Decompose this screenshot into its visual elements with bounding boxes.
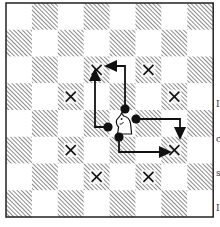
board-squares — [6, 3, 214, 217]
dark-square — [32, 164, 58, 191]
light-square — [187, 137, 213, 164]
dark-square — [187, 164, 213, 191]
x-mark-icon — [167, 90, 181, 104]
dark-square — [110, 137, 136, 164]
dark-square — [187, 110, 213, 137]
light-square — [58, 110, 84, 137]
light-square — [84, 137, 110, 164]
light-square — [136, 137, 162, 164]
dot-icon — [114, 132, 123, 141]
dot-icon — [120, 104, 129, 113]
light-square — [187, 83, 213, 110]
knight-move-diagram — [0, 0, 220, 227]
dark-square — [84, 3, 110, 30]
x-mark-icon — [141, 170, 155, 184]
light-square — [6, 110, 32, 137]
text-fragment: c — [216, 134, 220, 146]
light-square — [58, 164, 84, 191]
dark-square — [110, 30, 136, 57]
dark-square — [6, 190, 32, 217]
dark-square — [136, 110, 162, 137]
light-square — [110, 164, 136, 191]
light-square — [32, 137, 58, 164]
light-square — [58, 3, 84, 30]
light-square — [161, 110, 187, 137]
light-square — [136, 83, 162, 110]
light-square — [161, 57, 187, 84]
x-mark-icon — [90, 170, 104, 184]
dark-square — [58, 30, 84, 57]
light-square — [84, 30, 110, 57]
dark-square — [6, 83, 32, 110]
light-square — [187, 30, 213, 57]
dark-square — [110, 190, 136, 217]
text-fragment: I — [216, 99, 220, 111]
light-square — [6, 3, 32, 30]
dark-square — [32, 3, 58, 30]
light-square — [6, 57, 32, 84]
light-square — [32, 30, 58, 57]
text-fragment: s — [216, 168, 220, 180]
x-mark-icon — [167, 143, 181, 157]
dot-icon — [131, 114, 140, 123]
x-mark-icon — [64, 90, 78, 104]
light-square — [136, 30, 162, 57]
light-square — [84, 83, 110, 110]
x-mark-icon — [141, 63, 155, 77]
dark-square — [161, 30, 187, 57]
dark-square — [6, 30, 32, 57]
dark-square — [161, 190, 187, 217]
light-square — [187, 190, 213, 217]
dark-square — [136, 3, 162, 30]
light-square — [58, 57, 84, 84]
light-square — [32, 83, 58, 110]
light-square — [6, 164, 32, 191]
text-fragment: I — [216, 203, 220, 215]
light-square — [161, 164, 187, 191]
clipped-side-text: I c s I t - a I s — [216, 76, 220, 227]
dark-square — [187, 3, 213, 30]
light-square — [32, 190, 58, 217]
dark-square — [32, 110, 58, 137]
light-square — [110, 3, 136, 30]
dark-square — [58, 190, 84, 217]
dot-icon — [103, 122, 112, 131]
dark-square — [187, 57, 213, 84]
x-mark-icon — [64, 143, 78, 157]
dark-square — [6, 137, 32, 164]
light-square — [136, 190, 162, 217]
light-square — [84, 190, 110, 217]
dark-square — [32, 57, 58, 84]
light-square — [161, 3, 187, 30]
